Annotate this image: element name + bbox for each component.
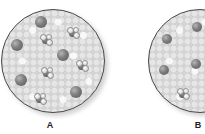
panel-label-a: A: [47, 120, 54, 130]
molecule-cluster: [177, 88, 189, 100]
solution-circle-b: [148, 9, 205, 113]
molecule-cluster: [76, 60, 88, 72]
outer-atom: [82, 65, 89, 72]
outer-atom: [46, 34, 52, 40]
ion-sphere: [35, 16, 47, 28]
molecule-cluster: [34, 93, 46, 105]
molecule-cluster: [41, 67, 53, 79]
outer-atom: [82, 60, 88, 66]
outer-atom: [183, 88, 189, 94]
panel-label-b: B: [195, 120, 202, 130]
outer-atom: [40, 98, 47, 105]
outer-atom: [73, 32, 80, 39]
ion-sphere: [192, 22, 202, 32]
molecule-cluster: [67, 27, 79, 39]
molecule-cluster: [40, 34, 52, 46]
ion-sphere: [57, 49, 69, 61]
solution-circle-a: [1, 9, 105, 113]
ion-sphere: [11, 39, 23, 51]
ion-sphere: [15, 74, 27, 86]
outer-atom: [46, 39, 53, 46]
outer-atom: [183, 93, 190, 100]
outer-atom: [47, 72, 54, 79]
ion-sphere: [159, 65, 169, 75]
ion-sphere: [162, 34, 172, 44]
outer-atom: [47, 67, 53, 73]
ion-sphere: [70, 86, 82, 98]
outer-atom: [40, 93, 46, 99]
outer-atom: [73, 27, 79, 33]
ion-sphere: [191, 59, 201, 69]
